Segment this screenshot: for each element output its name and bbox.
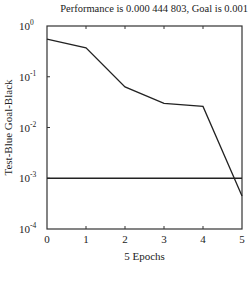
x-tick-label: 5	[239, 233, 245, 245]
x-axis-label: 5 Epochs	[124, 250, 165, 262]
y-axis-label: Test-Blue Goal-Black	[2, 79, 14, 176]
x-tick-label: 0	[44, 233, 50, 245]
y-tick-label: 10-2	[19, 120, 36, 134]
x-tick-label: 4	[200, 233, 206, 245]
x-tick-label: 1	[83, 233, 89, 245]
chart-area: 01234510010-110-210-310-45 EpochsTest-Bl…	[0, 0, 249, 281]
y-tick-label: 10-3	[19, 170, 36, 184]
y-tick-label: 10-1	[19, 69, 36, 83]
test-line	[47, 39, 242, 196]
x-tick-label: 2	[122, 233, 128, 245]
y-tick-label: 100	[19, 18, 34, 32]
x-tick-label: 3	[161, 233, 167, 245]
y-tick-label: 10-4	[19, 221, 36, 235]
